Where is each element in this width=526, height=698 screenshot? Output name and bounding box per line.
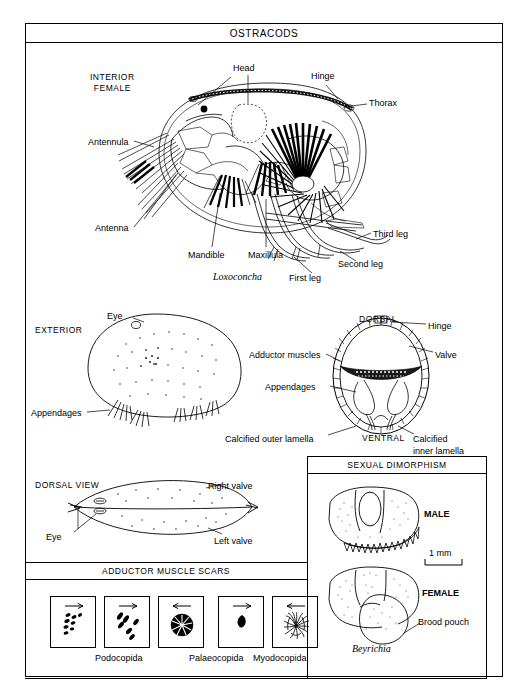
interior-anatomy-drawing xyxy=(26,43,504,298)
sexual-dimorphism-panel: SEXUAL DIMORPHISM MALE 1 mm FEMALE Brood… xyxy=(307,456,487,679)
scar-pattern-rosette-cluster xyxy=(159,597,205,649)
scar-pattern-rows-of-small-scars xyxy=(51,597,97,649)
caption-palaeocopida: Palaeocopida xyxy=(189,653,244,663)
scar-pattern-single-scar xyxy=(219,597,265,649)
ostracods-plate: OSTRACODS INTERIOR FEMALE Head Hinge Tho… xyxy=(25,23,503,677)
scar-box-podocopida-1 xyxy=(50,596,96,648)
scale-bar xyxy=(425,559,462,565)
exterior-and-cross-section-drawing xyxy=(26,292,504,456)
exterior-and-cross-section-row: EXTERIOR Eye Appendages DORSAL Hinge Val… xyxy=(26,292,502,456)
scar-box-palaeocopida xyxy=(218,596,264,648)
adductor-muscle-scars-panel: ADDUCTOR MUSCLE SCARS xyxy=(25,562,308,679)
dimorphism-drawing xyxy=(308,457,488,680)
adductor-panel-header: ADDUCTOR MUSCLE SCARS xyxy=(25,563,307,580)
adductor-panel-title: ADDUCTOR MUSCLE SCARS xyxy=(102,566,230,576)
scar-box-podocopida-3 xyxy=(158,596,204,648)
plate-title: OSTRACODS xyxy=(230,28,299,39)
scar-box-podocopida-2 xyxy=(104,596,150,648)
male-valve-outline xyxy=(329,487,419,548)
dorsal-view-figure: DORSAL VIEW Right valve Left valve Eye xyxy=(26,456,308,562)
exterior-eye-marker xyxy=(132,322,141,329)
caption-podocopida: Podocopida xyxy=(95,653,143,663)
caption-myodocopida: Myodocopida xyxy=(253,653,307,663)
plate-title-bar: OSTRACODS xyxy=(26,24,502,43)
interior-female-figure: INTERIOR FEMALE Head Hinge Thorax Antenn… xyxy=(26,43,502,298)
dorsal-view-drawing xyxy=(26,456,308,562)
scar-pattern-scattered-elongate-scars xyxy=(105,597,151,649)
